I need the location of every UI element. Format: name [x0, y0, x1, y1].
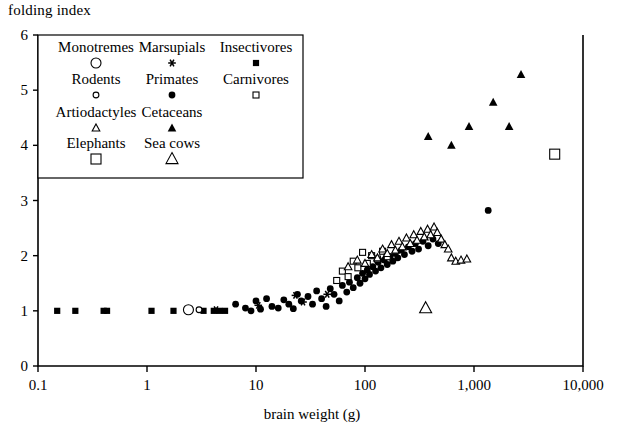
- data-point: [331, 291, 338, 298]
- legend-marker-open-square-small: [253, 92, 259, 98]
- data-point: [232, 301, 239, 308]
- y-tick-label: 0: [21, 358, 29, 374]
- data-point: [216, 308, 222, 314]
- data-point: [253, 298, 260, 305]
- data-point: [305, 293, 312, 300]
- y-tick-label: 3: [21, 193, 29, 209]
- data-point: [104, 308, 110, 314]
- data-point: [313, 288, 320, 295]
- data-point: [196, 307, 202, 313]
- series-rodents: [196, 307, 202, 313]
- x-tick-label: 0.1: [29, 377, 48, 393]
- data-point: [334, 277, 340, 283]
- x-tick-label: 10,000: [562, 377, 603, 393]
- data-point: [401, 251, 408, 258]
- legend-label: Cetaceans: [142, 104, 203, 120]
- data-point: [517, 70, 526, 78]
- series-artiodactyls: [344, 223, 470, 270]
- x-tick-label: 1,000: [457, 377, 491, 393]
- series-monotremes: [183, 305, 193, 315]
- data-point: [269, 303, 276, 310]
- data-point: [298, 298, 305, 305]
- data-point: [148, 308, 154, 314]
- x-tick-label: 1: [143, 377, 151, 393]
- figure-scatter-plot: folding index brain weight (g) 01234560.…: [0, 0, 624, 437]
- data-point: [388, 241, 396, 248]
- data-point: [327, 285, 334, 292]
- data-point: [350, 284, 357, 291]
- x-tick-label: 100: [354, 377, 377, 393]
- data-point: [505, 122, 514, 130]
- legend-label: Insectivores: [220, 39, 293, 55]
- series-cetaceans: [424, 70, 525, 149]
- data-point: [248, 307, 255, 314]
- series-elephants: [550, 149, 560, 159]
- legend-label: Elephants: [66, 135, 125, 151]
- data-point: [343, 289, 350, 296]
- data-point: [489, 98, 498, 106]
- data-point: [403, 234, 411, 241]
- legend-label: Sea cows: [144, 135, 200, 151]
- data-point: [355, 265, 361, 271]
- data-point: [378, 264, 385, 271]
- data-point: [211, 308, 217, 314]
- data-point: [318, 295, 325, 302]
- data-point: [275, 305, 282, 312]
- legend-marker-open-circle-large: [91, 58, 101, 68]
- data-point: [345, 274, 351, 280]
- legend-marker-filled-square: [253, 60, 259, 66]
- legend-label: Rodents: [71, 71, 120, 87]
- data-point: [409, 248, 416, 255]
- legend-label: Monotremes: [58, 39, 134, 55]
- data-point: [465, 122, 474, 130]
- y-tick-label: 1: [21, 303, 29, 319]
- data-point: [183, 305, 193, 315]
- data-point: [72, 308, 78, 314]
- data-point: [420, 302, 432, 313]
- data-point: [424, 132, 433, 140]
- x-tick-label: 10: [249, 377, 264, 393]
- y-tick-label: 4: [21, 137, 29, 153]
- data-point: [170, 308, 176, 314]
- data-point: [447, 141, 456, 149]
- legend-marker-open-square-medium: [91, 154, 101, 164]
- legend-label: Artiodactyles: [56, 104, 137, 120]
- data-point: [336, 298, 343, 305]
- data-point: [294, 291, 301, 298]
- legend-marker-filled-circle: [169, 92, 176, 99]
- data-point: [366, 271, 373, 278]
- data-point: [222, 308, 228, 314]
- data-point: [437, 235, 445, 242]
- plot-canvas: 01234560.11101001,00010,000 MonotremesMa…: [0, 0, 624, 437]
- data-point: [360, 249, 366, 255]
- legend-label: Marsupials: [139, 39, 206, 55]
- y-tick-label: 6: [21, 27, 29, 43]
- data-point: [257, 306, 264, 313]
- data-point: [323, 303, 330, 310]
- data-point: [309, 301, 316, 308]
- y-tick-label: 2: [21, 248, 29, 264]
- data-point: [550, 149, 560, 159]
- legend-layer: MonotremesMarsupialsInsectivoresRodentsP…: [38, 35, 303, 178]
- y-tick-label: 5: [21, 82, 29, 98]
- legend-label: Primates: [146, 71, 199, 87]
- data-point: [463, 255, 471, 262]
- data-point: [54, 308, 60, 314]
- data-point: [394, 254, 401, 261]
- data-point: [263, 295, 270, 302]
- legend-marker-open-circle-small: [93, 92, 99, 98]
- data-point: [290, 305, 297, 312]
- data-point: [415, 246, 422, 253]
- series-sea-cows: [420, 302, 432, 313]
- legend-label: Carnivores: [223, 71, 289, 87]
- data-point: [425, 242, 432, 249]
- data-point: [485, 207, 492, 214]
